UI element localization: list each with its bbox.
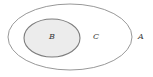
set-label-a: A <box>137 32 144 41</box>
venn-diagram-svg: B C A <box>0 0 153 77</box>
set-label-b: B <box>48 32 55 41</box>
set-label-c: C <box>93 32 99 41</box>
set-diagram-container: B C A <box>0 0 153 77</box>
